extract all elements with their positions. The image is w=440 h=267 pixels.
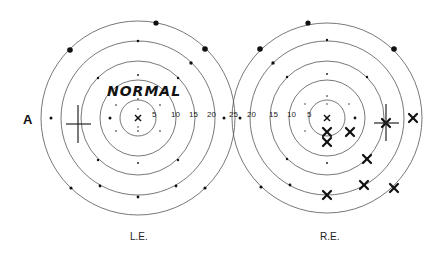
x-mark-icon (360, 181, 368, 189)
fixation-icon (135, 115, 141, 121)
fixation-icon (324, 115, 330, 121)
test-points (50, 20, 208, 198)
x-mark-icon (323, 138, 331, 146)
blind-spot-cross-icon (66, 105, 91, 143)
scale-label-10: 10 (287, 110, 296, 119)
scale-label-25: 25 (229, 110, 238, 119)
x-mark-icon (363, 155, 371, 163)
scale-label-15: 15 (269, 110, 278, 119)
visual-field-diagram: 5 10 15 20 NORMAL A L.E. (0, 0, 440, 267)
right-eye-field: 25 20 15 10 5 R.E. (223, 20, 423, 242)
missed-points (323, 114, 417, 199)
scale-label-15: 15 (189, 110, 198, 119)
blind-spot-cross-icon (374, 104, 399, 141)
x-mark-icon (323, 128, 331, 136)
x-mark-icon (346, 128, 354, 136)
right-eye-label: R.E. (320, 231, 339, 242)
x-mark-icon (409, 114, 417, 122)
normal-annotation: NORMAL (107, 83, 181, 99)
scale-label-20: 20 (247, 110, 256, 119)
left-eye-label: L.E. (130, 231, 148, 242)
left-eye-field: 5 10 15 20 NORMAL A L.E. (23, 20, 235, 242)
scale-label-5: 5 (307, 110, 312, 119)
side-label: A (23, 112, 33, 127)
scale-label-20: 20 (207, 110, 216, 119)
scale-label-10: 10 (171, 110, 180, 119)
scale-label-5: 5 (152, 110, 157, 119)
